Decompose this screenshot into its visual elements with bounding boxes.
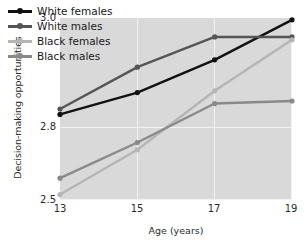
- series-line: [60, 101, 292, 178]
- legend-label-black-females: Black females: [37, 35, 110, 47]
- data-point: [212, 88, 217, 93]
- x-tick-label-17: 17: [199, 203, 229, 214]
- legend-swatch-icon: [8, 5, 32, 17]
- data-point: [57, 106, 62, 111]
- data-point: [135, 140, 140, 145]
- x-tick-label-15: 15: [122, 203, 152, 214]
- legend-label-white-females: White females: [37, 5, 113, 17]
- data-point: [289, 17, 294, 22]
- legend-label-white-males: White males: [37, 20, 102, 32]
- legend-item-black-females: Black females: [8, 34, 113, 48]
- data-point: [135, 90, 140, 95]
- data-point: [212, 57, 217, 62]
- legend-item-black-males: Black males: [8, 49, 113, 63]
- legend-swatch-icon: [8, 20, 32, 32]
- chart-container: Decision-making opportunities 3.0 2.8 2.…: [0, 0, 307, 244]
- series-black-males: [57, 98, 294, 180]
- data-point: [289, 37, 294, 42]
- legend-label-black-males: Black males: [37, 50, 100, 62]
- legend-item-white-males: White males: [8, 19, 113, 33]
- data-point: [135, 147, 140, 152]
- legend-item-white-females: White females: [8, 4, 113, 18]
- y-tick-label-2-8: 2.8: [26, 121, 56, 132]
- data-point: [57, 192, 62, 197]
- x-tick-label-19: 19: [276, 203, 306, 214]
- legend-swatch-icon: [8, 50, 32, 62]
- x-axis-title: Age (years): [60, 225, 292, 236]
- data-point: [135, 65, 140, 70]
- legend-swatch-icon: [8, 35, 32, 47]
- data-point: [212, 101, 217, 106]
- series-line: [60, 40, 292, 195]
- data-point: [212, 34, 217, 39]
- data-point: [57, 112, 62, 117]
- x-tick-label-13: 13: [45, 203, 75, 214]
- data-point: [57, 176, 62, 181]
- legend: White females White males Black females …: [8, 4, 113, 63]
- data-point: [289, 98, 294, 103]
